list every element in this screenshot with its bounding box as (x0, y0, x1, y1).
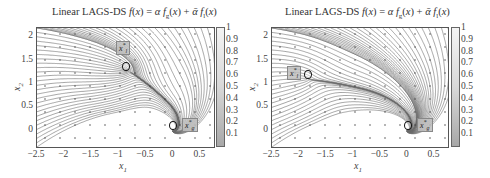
right-global-attractor-marker (404, 121, 412, 130)
x-tick-label: 0 (391, 149, 421, 159)
x-tick-label: −0.5 (364, 149, 394, 159)
y-tick-label: 0 (248, 124, 268, 134)
colorbar-tick-label: 0.8 (461, 46, 473, 56)
x-tick-label: −2 (283, 149, 313, 159)
colorbar-tick-label: 0.5 (461, 81, 473, 91)
right-xlabel: x1 (354, 160, 362, 174)
x-tick-label: 0.5 (418, 149, 448, 159)
colorbar-tick-label: 0.2 (461, 116, 473, 126)
right-plot-title: Linear LAGS-DS f(x) = α fg(x) + ᾱ fl(x) (285, 6, 450, 20)
colorbar-tick-label: 1 (461, 22, 466, 32)
colorbar-tick-label: 0.3 (461, 105, 473, 115)
right-plot-panel: Linear LAGS-DS f(x) = α fg(x) + ᾱ fl(x) … (0, 0, 490, 178)
colorbar-tick-label: 0.7 (461, 57, 473, 67)
x-tick-label: −1 (337, 149, 367, 159)
x-tick-label: −2.5 (256, 149, 286, 159)
colorbar-tick-label: 0.9 (461, 34, 473, 44)
right-local-attractor-label: x*l (287, 66, 301, 80)
colorbar-tick-label: 0.1 (461, 128, 473, 138)
colorbar-tick-label: 0.6 (461, 69, 473, 79)
right-global-attractor-label: x*g (417, 118, 433, 132)
x-tick-label: −1.5 (310, 149, 340, 159)
right-local-attractor-marker (304, 70, 312, 79)
right-colorbar (451, 27, 460, 147)
y-tick-label: 1.5 (248, 54, 268, 64)
y-tick-label: 0.5 (248, 100, 268, 110)
right-ylabel: x2 (246, 83, 260, 91)
colorbar-tick-label: 0.4 (461, 93, 473, 103)
y-tick-label: 2 (248, 30, 268, 40)
